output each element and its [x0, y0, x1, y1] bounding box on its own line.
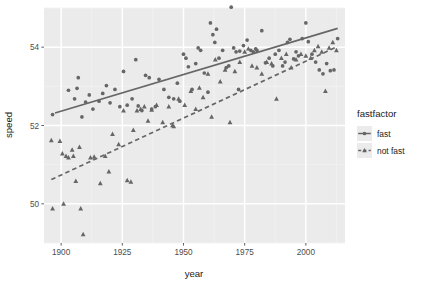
x-tick-label: 1950	[174, 248, 193, 257]
chart-canvas: 19001925195019752000 505254 year speed f…	[0, 0, 423, 287]
y-axis-title: speed	[3, 112, 14, 138]
legend-title: fastfactor	[357, 108, 397, 119]
legend-item-label: not fast	[377, 146, 405, 156]
x-tick-label: 2000	[297, 248, 316, 257]
y-tick-label: 54	[30, 43, 40, 52]
x-tick-label: 1925	[113, 248, 132, 257]
x-tick-label: 1975	[236, 248, 255, 257]
x-tick-label: 1900	[52, 248, 71, 257]
y-tick-label: 50	[30, 200, 40, 209]
ggplot-scatter-chart: 19001925195019752000 505254 year speed f…	[0, 0, 423, 287]
legend-item-label: fast	[377, 129, 391, 139]
x-axis-title: year	[185, 268, 204, 279]
y-tick-label: 52	[30, 122, 40, 131]
